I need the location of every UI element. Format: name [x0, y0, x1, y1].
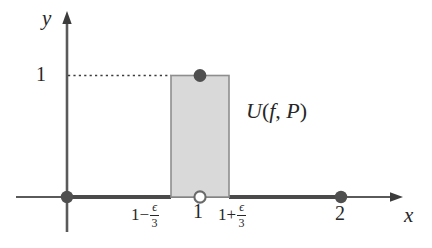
right-endpoint-lead: 1+	[218, 206, 236, 223]
x-tick-label-center: 1	[193, 201, 203, 221]
right-endpoint-numerator: ϵ	[238, 201, 245, 214]
right-endpoint-fraction: ϵ 3	[237, 201, 246, 229]
left-endpoint-numerator: ϵ	[151, 201, 158, 214]
left-endpoint-lead: 1−	[131, 206, 149, 223]
upper-sum-annotation: U(f, P)	[246, 100, 307, 122]
right-endpoint-expression: 1+ ϵ 3	[218, 200, 246, 228]
annotation-p: P	[286, 98, 299, 123]
left-endpoint-denominator: 3	[151, 217, 159, 230]
right-endpoint-denominator: 3	[238, 217, 246, 230]
x-axis-arrowhead	[390, 192, 403, 201]
annotation-u: U	[246, 98, 262, 123]
x-axis-label: x	[404, 205, 413, 226]
x-tick-label-left-endpoint: 1− ϵ 3	[131, 200, 159, 228]
function-value-dot	[194, 69, 207, 82]
annotation-close-paren: )	[300, 98, 307, 123]
figure-canvas: y x 1 1− ϵ 3 1 1+ ϵ 3 2 U(f, P)	[0, 0, 432, 248]
plot-svg	[0, 0, 432, 248]
origin-point-dot	[61, 191, 73, 203]
left-endpoint-expression: 1− ϵ 3	[131, 200, 159, 228]
x-tick-label-right-endpoint: 1+ ϵ 3	[218, 200, 246, 228]
x-tick-label-two: 2	[335, 203, 345, 223]
left-endpoint-fraction: ϵ 3	[150, 201, 159, 229]
y-tick-label-one: 1	[36, 64, 46, 84]
y-axis-arrowhead	[62, 11, 71, 24]
annotation-comma: ,	[275, 98, 286, 123]
y-axis-label: y	[42, 8, 51, 29]
upper-sum-rectangle	[171, 76, 229, 198]
